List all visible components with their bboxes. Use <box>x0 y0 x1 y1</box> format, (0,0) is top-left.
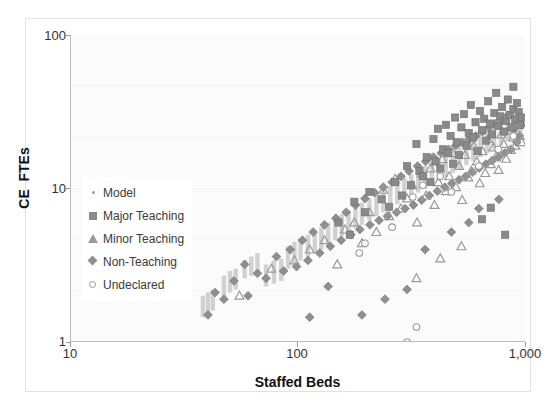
diamond-data-point <box>324 282 333 291</box>
legend-item[interactable]: Minor Teaching <box>86 227 184 250</box>
triangle-data-point <box>457 242 466 250</box>
triangle-data-point <box>412 274 421 282</box>
legend-item-label: Minor Teaching <box>103 232 184 246</box>
square-data-point <box>434 125 441 132</box>
chart-container: 100 10 1 10 100 1,000 ModelMajor Teachin… <box>0 0 551 413</box>
x-tick-label-100: 100 <box>286 346 308 361</box>
square-data-point <box>508 124 515 131</box>
diamond-data-point <box>447 228 456 237</box>
diamond-data-point <box>366 220 375 229</box>
square-data-point <box>460 111 467 118</box>
square-data-point <box>513 100 520 107</box>
triangle-data-point <box>372 227 381 235</box>
open-circle-data-point <box>510 133 517 140</box>
diamond-data-point <box>305 313 314 322</box>
dot-marker-icon <box>86 186 102 200</box>
square-data-point <box>378 196 385 203</box>
legend-item[interactable]: Undeclared <box>86 273 184 296</box>
square-data-point <box>366 188 373 195</box>
square-data-point <box>470 134 477 141</box>
triangle-data-point <box>235 291 244 299</box>
diamond-marker-icon <box>86 255 102 269</box>
square-data-point <box>502 231 509 238</box>
open-circle-data-point <box>410 194 417 201</box>
square-data-point <box>476 107 483 114</box>
diamond-data-point <box>464 218 473 227</box>
legend-item[interactable]: Model <box>86 181 184 204</box>
open-circle-data-point <box>420 182 427 189</box>
open-circle-data-point <box>356 250 363 257</box>
square-data-point <box>445 150 452 157</box>
square-data-point <box>403 162 410 169</box>
diamond-data-point <box>304 256 313 265</box>
open-circle-data-point <box>389 224 396 231</box>
square-data-point <box>361 209 368 216</box>
open-circle-data-point <box>404 339 411 342</box>
legend-item-label: Model <box>103 186 136 200</box>
open-circle-data-point <box>437 173 444 180</box>
square-data-point <box>419 173 426 180</box>
square-data-point <box>423 154 430 161</box>
open-circle-data-point <box>448 189 455 196</box>
x-tick-mark-10 <box>70 342 71 347</box>
diamond-data-point <box>358 311 367 320</box>
square-data-point <box>493 89 500 96</box>
x-axis-title: Staffed Beds <box>70 374 525 390</box>
square-data-point <box>487 204 494 211</box>
y-tick-label-100: 100 <box>26 29 66 42</box>
legend-item-label: Undeclared <box>103 278 164 292</box>
legend-item-label: Major Teaching <box>103 209 184 223</box>
square-data-point <box>385 203 392 210</box>
square-data-point <box>499 103 506 110</box>
square-data-point <box>504 96 511 103</box>
diamond-data-point <box>417 196 426 205</box>
square-data-point <box>467 101 474 108</box>
square-data-point <box>489 131 496 138</box>
square-data-point <box>398 192 405 199</box>
square-data-point <box>407 182 414 189</box>
y-tick-label-10: 10 <box>26 182 66 195</box>
triangle-data-point <box>430 200 439 208</box>
diamond-data-point <box>240 260 249 269</box>
diamond-data-point <box>474 204 483 213</box>
square-data-point <box>427 179 434 186</box>
square-data-point <box>500 128 507 135</box>
square-data-point <box>510 83 517 90</box>
x-tick-mark-100 <box>297 342 298 347</box>
square-data-point <box>474 148 481 155</box>
chart-legend: ModelMajor TeachingMinor TeachingNon-Tea… <box>82 177 192 301</box>
square-data-point <box>472 119 479 126</box>
x-axis-ticks: 10 100 1,000 <box>70 346 525 366</box>
triangle-data-point <box>333 260 342 268</box>
square-data-point <box>346 231 353 238</box>
square-data-point <box>432 158 439 165</box>
diamond-data-point <box>494 195 503 204</box>
diamond-data-point <box>421 245 430 254</box>
square-data-point <box>455 152 462 159</box>
square-data-point <box>485 98 492 105</box>
square-data-point <box>449 160 456 167</box>
legend-item-label: Non-Teaching <box>103 255 177 269</box>
diamond-data-point <box>262 274 271 283</box>
diamond-data-point <box>403 285 412 294</box>
diamond-data-point <box>337 236 346 245</box>
model-bar <box>249 257 253 276</box>
triangle-data-point <box>458 196 467 204</box>
square-data-point <box>452 114 459 121</box>
legend-item[interactable]: Major Teaching <box>86 204 184 227</box>
triangle-data-point <box>475 179 484 187</box>
square-data-point <box>437 165 444 172</box>
triangle-marker-icon <box>86 232 102 246</box>
x-tick-mark-1000 <box>525 342 526 347</box>
diamond-data-point <box>253 269 262 278</box>
legend-item[interactable]: Non-Teaching <box>86 250 184 273</box>
open-circle-data-point <box>495 146 502 153</box>
triangle-data-point <box>494 165 503 173</box>
model-bar <box>292 242 296 265</box>
square-data-point <box>442 121 449 128</box>
square-data-point <box>413 140 420 147</box>
square-data-point <box>517 121 524 128</box>
square-data-point <box>453 139 460 146</box>
square-data-point <box>478 216 485 223</box>
open-circle-data-point <box>362 240 369 247</box>
